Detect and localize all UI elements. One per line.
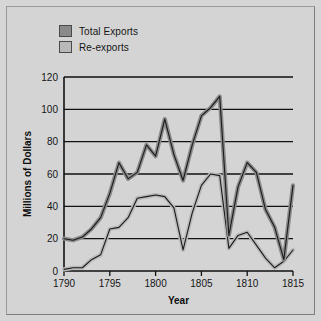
x-tick-label-1790: 1790: [53, 278, 76, 289]
x-tick-label-1815: 1815: [282, 278, 305, 289]
y-tick-label-120: 120: [41, 72, 58, 83]
y-tick-label-100: 100: [41, 104, 58, 115]
plot-area: 020406080100120179017951800180518101815M…: [7, 7, 321, 321]
x-tick-label-1805: 1805: [190, 278, 213, 289]
y-tick-label-20: 20: [47, 233, 59, 244]
y-tick-label-0: 0: [52, 266, 58, 277]
x-tick-label-1800: 1800: [144, 278, 167, 289]
chart-card: Total Exports Re-exports 020406080100120…: [6, 6, 315, 315]
y-tick-label-80: 80: [47, 136, 59, 147]
y-tick-label-40: 40: [47, 201, 59, 212]
line-chart: 020406080100120179017951800180518101815M…: [7, 7, 321, 321]
x-axis-title: Year: [168, 295, 189, 306]
y-axis-title: Millions of Dollars: [22, 131, 33, 218]
x-tick-label-1810: 1810: [236, 278, 259, 289]
figure-frame: Total Exports Re-exports 020406080100120…: [0, 0, 321, 321]
y-tick-label-60: 60: [47, 169, 59, 180]
x-tick-label-1795: 1795: [99, 278, 122, 289]
